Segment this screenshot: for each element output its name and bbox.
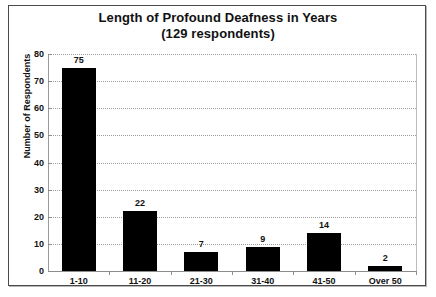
y-tick-label: 20 (22, 212, 44, 222)
y-tick-label: 0 (22, 266, 44, 276)
y-tick-label: 40 (22, 158, 44, 168)
gridline (48, 81, 416, 82)
bar (246, 247, 280, 271)
gridline (48, 244, 416, 245)
bar-value-label: 9 (243, 234, 283, 244)
gridline (48, 190, 416, 191)
plot-right-border (416, 54, 417, 272)
y-tick-label: 60 (22, 103, 44, 113)
y-tick-label-group: 01020304050607080 (19, 54, 44, 271)
y-tick-mark (48, 81, 52, 82)
chart-subtitle: (129 respondents) (9, 26, 427, 42)
y-tick-mark (48, 190, 52, 191)
gridline (48, 54, 416, 55)
x-tick-mark (355, 271, 356, 275)
y-tick-label: 10 (22, 239, 44, 249)
gridline (48, 163, 416, 164)
bar-value-label: 75 (59, 55, 99, 65)
plot-area (48, 54, 416, 271)
y-tick-mark (48, 271, 52, 272)
y-tick-mark (48, 163, 52, 164)
bar (123, 211, 157, 271)
bar-value-label: 7 (181, 239, 221, 249)
bar-value-label: 14 (304, 220, 344, 230)
chart-figure: Length of Profound Deafness in Years (12… (8, 5, 426, 286)
y-tick-mark (48, 217, 52, 218)
gridline (48, 217, 416, 218)
x-tick-mark (293, 271, 294, 275)
x-tick-mark (171, 271, 172, 275)
bar-value-label: 22 (120, 198, 160, 208)
chart-title-block: Length of Profound Deafness in Years (12… (9, 10, 427, 42)
bar (307, 233, 341, 271)
y-tick-mark (48, 135, 52, 136)
x-tick-label: 41-50 (293, 276, 355, 286)
x-tick-label: Over 50 (354, 276, 416, 286)
x-tick-mark (109, 271, 110, 275)
y-tick-mark (48, 244, 52, 245)
bar (184, 252, 218, 271)
x-tick-label: 1-10 (48, 276, 110, 286)
chart-title: Length of Profound Deafness in Years (9, 10, 427, 26)
x-tick-label: 11-20 (109, 276, 171, 286)
y-tick-label: 70 (22, 76, 44, 86)
y-tick-label: 80 (22, 49, 44, 59)
y-tick-mark (48, 108, 52, 109)
y-tick-label: 50 (22, 130, 44, 140)
y-tick-mark (48, 54, 52, 55)
bar (62, 68, 96, 271)
bar-value-label: 2 (365, 253, 405, 263)
gridline (48, 108, 416, 109)
gridline (48, 135, 416, 136)
x-tick-mark (232, 271, 233, 275)
x-tick-label: 21-30 (170, 276, 232, 286)
x-tick-label: 31-40 (232, 276, 294, 286)
y-tick-label: 30 (22, 185, 44, 195)
x-tick-mark (416, 271, 417, 275)
